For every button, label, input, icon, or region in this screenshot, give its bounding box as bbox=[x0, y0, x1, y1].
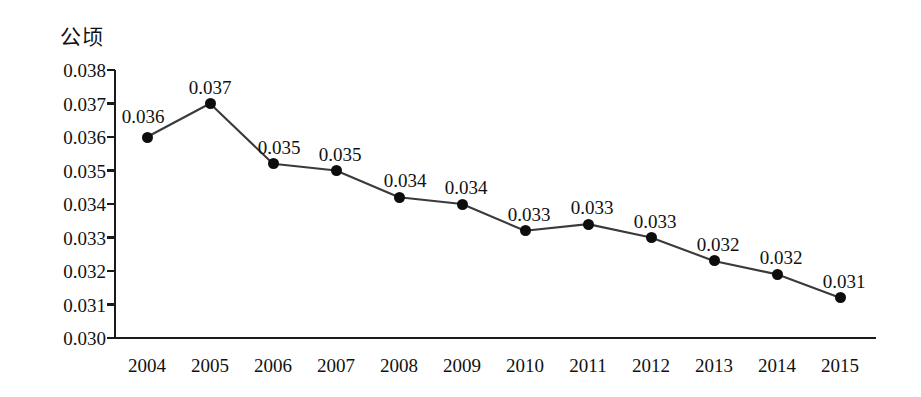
data-point-marker bbox=[331, 165, 342, 176]
data-point-marker bbox=[583, 219, 594, 230]
data-point-label: 0.032 bbox=[741, 248, 821, 268]
data-point-marker bbox=[268, 158, 279, 169]
data-point-label: 0.036 bbox=[103, 107, 183, 127]
data-point-marker bbox=[772, 269, 783, 280]
data-point-marker bbox=[457, 199, 468, 210]
data-point-marker bbox=[142, 132, 153, 143]
data-point-label: 0.035 bbox=[300, 145, 380, 165]
data-point-marker bbox=[709, 255, 720, 266]
data-point-label: 0.034 bbox=[426, 178, 506, 198]
data-point-marker bbox=[394, 192, 405, 203]
data-point-label: 0.033 bbox=[615, 212, 695, 232]
data-series-line bbox=[147, 104, 840, 298]
data-point-marker bbox=[646, 232, 657, 243]
series-polyline bbox=[147, 104, 840, 298]
data-point-marker bbox=[205, 98, 216, 109]
data-point-label: 0.031 bbox=[804, 272, 884, 292]
data-point-label: 0.037 bbox=[170, 78, 250, 98]
data-point-marker bbox=[520, 225, 531, 236]
data-point-marker bbox=[835, 292, 846, 303]
line-chart: 公顷 0.0380.0370.0360.0350.0340.0330.0320.… bbox=[0, 0, 921, 397]
